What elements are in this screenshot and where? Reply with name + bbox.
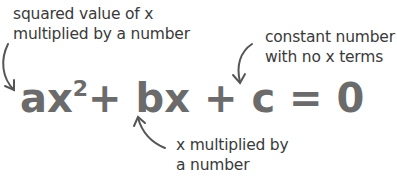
constant-line1: constant number <box>265 27 395 47</box>
quadratic-equation: ax2+ bx + c = 0 <box>20 78 364 125</box>
plus-1: + <box>88 75 122 121</box>
exponent: 2 <box>73 76 88 101</box>
linear-line2: a number <box>176 155 288 175</box>
rhs-zero: 0 <box>337 75 365 121</box>
constant-line2: with no x terms <box>265 47 395 67</box>
squared-annotation: squared value of x multiplied by a numbe… <box>13 4 190 44</box>
squared-line2: multiplied by a number <box>13 24 190 44</box>
term-c: c <box>251 75 275 121</box>
linear-line1: x multiplied by <box>176 135 288 155</box>
equals-sign: = <box>289 75 323 121</box>
plus-2: + <box>204 75 238 121</box>
term-ax: ax <box>20 75 73 121</box>
arrow-squared-icon <box>3 44 14 90</box>
squared-line1: squared value of x <box>13 4 190 24</box>
linear-annotation: x multiplied by a number <box>176 135 288 175</box>
term-bx: bx <box>136 75 190 121</box>
constant-annotation: constant number with no x terms <box>265 27 395 67</box>
